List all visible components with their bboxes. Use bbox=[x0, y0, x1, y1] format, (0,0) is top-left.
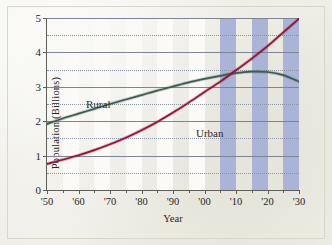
x-tick-mark bbox=[205, 190, 206, 194]
y-tick-mark bbox=[43, 52, 47, 53]
x-tick-mark bbox=[110, 190, 111, 194]
x-tick-mark bbox=[268, 190, 269, 194]
series-line-halo-rural bbox=[47, 72, 299, 124]
y-tick-mark bbox=[43, 18, 47, 19]
series-label-urban: Urban bbox=[196, 128, 224, 139]
series-line-rural bbox=[47, 72, 299, 124]
x-tick-mark bbox=[173, 190, 174, 194]
x-tick-mark-minor bbox=[94, 190, 95, 193]
x-tick-mark bbox=[236, 190, 237, 194]
y-tick-mark bbox=[43, 121, 47, 122]
series-lines bbox=[47, 18, 299, 190]
x-tick-mark-minor bbox=[189, 190, 190, 193]
series-label-rural: Rural bbox=[86, 99, 110, 110]
y-tick-label: 1 bbox=[36, 150, 42, 161]
x-tick-mark-minor bbox=[220, 190, 221, 193]
x-tick-label: '60 bbox=[72, 197, 84, 208]
x-tick-mark-minor bbox=[283, 190, 284, 193]
x-tick-mark bbox=[47, 190, 48, 194]
y-tick-label: 0 bbox=[36, 185, 42, 196]
x-tick-label: '80 bbox=[135, 197, 147, 208]
x-tick-mark-minor bbox=[252, 190, 253, 193]
y-tick-mark bbox=[43, 87, 47, 88]
plot-wrapper: 012345 '50'60'70'80'90'00'10'20'30 bbox=[47, 18, 299, 190]
x-tick-label: '50 bbox=[41, 197, 53, 208]
y-tick-label: 2 bbox=[36, 116, 42, 127]
x-tick-label: '00 bbox=[198, 197, 210, 208]
x-axis-label: Year bbox=[47, 213, 299, 224]
y-tick-label: 3 bbox=[36, 81, 42, 92]
chart-page: Population (Billions) Year 012345 '50'60… bbox=[0, 0, 332, 245]
y-tick-label: 4 bbox=[36, 47, 42, 58]
x-tick-mark bbox=[299, 190, 300, 194]
x-tick-label: '20 bbox=[261, 197, 273, 208]
x-tick-mark-minor bbox=[63, 190, 64, 193]
series-line-halo-urban bbox=[47, 19, 299, 164]
x-tick-mark bbox=[142, 190, 143, 194]
y-axis-line bbox=[46, 18, 47, 190]
plot-area bbox=[47, 18, 299, 190]
x-tick-mark-minor bbox=[126, 190, 127, 193]
y-tick-label: 5 bbox=[36, 13, 42, 24]
series-line-urban bbox=[47, 19, 299, 164]
x-tick-label: '70 bbox=[104, 197, 116, 208]
x-tick-label: '90 bbox=[167, 197, 179, 208]
x-tick-mark-minor bbox=[157, 190, 158, 193]
x-tick-mark bbox=[79, 190, 80, 194]
x-tick-label: '30 bbox=[293, 197, 305, 208]
x-tick-label: '10 bbox=[230, 197, 242, 208]
y-tick-mark bbox=[43, 156, 47, 157]
